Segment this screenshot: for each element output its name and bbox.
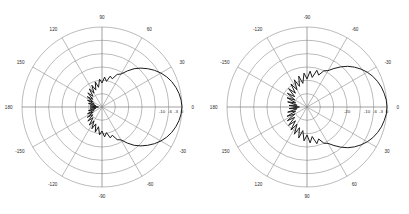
angular-tick-label: 0 xyxy=(396,105,399,110)
angular-tick-label: -60 xyxy=(351,27,358,32)
angular-tick-label: 150 xyxy=(221,149,229,154)
angular-tick-label: 30 xyxy=(180,60,186,65)
grid-spoke xyxy=(62,38,102,107)
grid-spoke xyxy=(102,107,142,176)
angular-tick-label: -30 xyxy=(384,60,391,65)
right-polar-plot-panel: 0-30-60-90-120-150180150120906030-20-10-… xyxy=(205,0,409,214)
radial-tick-label: -6 xyxy=(373,109,377,114)
grid-spoke xyxy=(307,107,347,176)
angular-tick-label: -120 xyxy=(253,27,263,32)
grid-spoke xyxy=(267,38,307,107)
radial-tick-label: -3 xyxy=(174,109,178,114)
left-polar-plot-panel: 0306090120150180-150-120-90-60-30-10-6-3… xyxy=(0,0,205,214)
left-polar-plot-svg: 0306090120150180-150-120-90-60-30-10-6-3… xyxy=(0,0,205,214)
radial-tick-label: -20 xyxy=(343,109,350,114)
angular-tick-label: 180 xyxy=(5,105,13,110)
angular-tick-label: 150 xyxy=(17,60,25,65)
radial-tick-label: -10 xyxy=(363,109,370,114)
grid-spoke xyxy=(307,38,347,107)
angular-tick-label: 90 xyxy=(304,194,310,199)
radial-tick-label: -6 xyxy=(168,109,172,114)
angular-tick-label: -60 xyxy=(147,182,154,187)
grid-spoke xyxy=(102,38,142,107)
angular-tick-label: 60 xyxy=(147,27,153,32)
angular-tick-label: -150 xyxy=(15,149,25,154)
angular-tick-label: -90 xyxy=(99,194,106,199)
angular-tick-label: 120 xyxy=(50,27,58,32)
right-polar-plot-svg: 0-30-60-90-120-150180150120906030-20-10-… xyxy=(205,0,409,214)
angular-tick-label: 180 xyxy=(209,105,217,110)
angular-tick-label: 60 xyxy=(351,182,357,187)
angular-tick-label: -120 xyxy=(48,182,58,187)
angular-tick-label: 0 xyxy=(192,105,195,110)
angular-tick-label: -30 xyxy=(180,149,187,154)
angular-tick-label: 30 xyxy=(384,149,390,154)
radial-tick-label: -10 xyxy=(159,109,166,114)
angular-tick-label: -90 xyxy=(303,15,310,20)
angular-tick-label: 90 xyxy=(99,15,105,20)
angular-tick-label: -150 xyxy=(220,60,230,65)
polar-plot-figure: 0306090120150180-150-120-90-60-30-10-6-3… xyxy=(0,0,409,214)
radial-tick-label: -3 xyxy=(379,109,383,114)
grid-spoke xyxy=(62,107,102,176)
grid-spoke xyxy=(267,107,307,176)
angular-tick-label: 120 xyxy=(254,182,262,187)
